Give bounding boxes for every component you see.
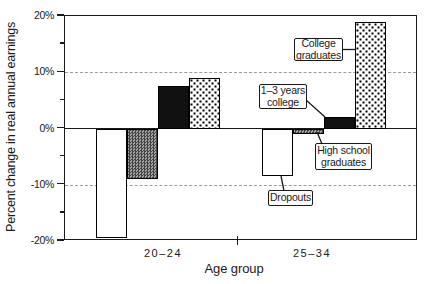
callout-high-school-graduates-line1: High school bbox=[317, 145, 370, 157]
callout-high-school-graduates-line2: graduates bbox=[321, 157, 366, 169]
callout-dropouts-line1: Dropouts bbox=[270, 192, 311, 204]
connector-1-3-years-college bbox=[306, 100, 325, 117]
callout-1-3-years-college-line2: college bbox=[267, 97, 299, 109]
callout-college-graduates-line2: graduates bbox=[296, 50, 341, 62]
callout-1-3-years-college: 1–3 years college bbox=[259, 84, 307, 109]
callout-dropouts: Dropouts bbox=[268, 190, 313, 206]
callout-connector-lines bbox=[0, 0, 428, 284]
connector-dropouts bbox=[281, 176, 284, 191]
callout-1-3-years-college-line1: 1–3 years bbox=[261, 85, 305, 97]
bar-chart-figure: Percent change in real annual earnings C… bbox=[0, 0, 428, 284]
callout-high-school-graduates: High school graduates bbox=[315, 143, 372, 170]
callout-college-graduates-line1: College bbox=[301, 38, 335, 50]
callout-college-graduates: College graduates bbox=[294, 38, 343, 61]
